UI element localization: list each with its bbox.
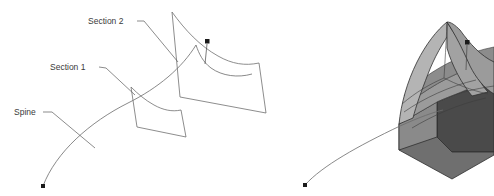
shaded-solid-view — [303, 22, 494, 187]
label-section-2: Section 2 — [88, 16, 124, 26]
label-spine: Spine — [14, 107, 36, 117]
section-1-profile — [131, 87, 186, 137]
wireframe-view — [41, 12, 266, 188]
swept-surface-illustration: Section 2 Section 1 Spine — [0, 0, 494, 196]
section-2-profile — [172, 12, 266, 113]
pin-marker-right — [465, 40, 470, 45]
spine-start-marker-right — [303, 183, 307, 187]
pin-marker-left — [205, 39, 210, 44]
label-section-1: Section 1 — [50, 62, 86, 72]
pin-stem-left — [205, 44, 207, 64]
leader-section-2 — [137, 21, 178, 62]
spine-start-marker-left — [41, 184, 45, 188]
diagram-canvas: Section 2 Section 1 Spine — [0, 0, 494, 196]
leader-section-1 — [99, 67, 135, 95]
spine-tail-left — [196, 45, 252, 76]
leader-spine — [43, 112, 95, 148]
annotation-layer: Section 2 Section 1 Spine — [14, 16, 178, 148]
